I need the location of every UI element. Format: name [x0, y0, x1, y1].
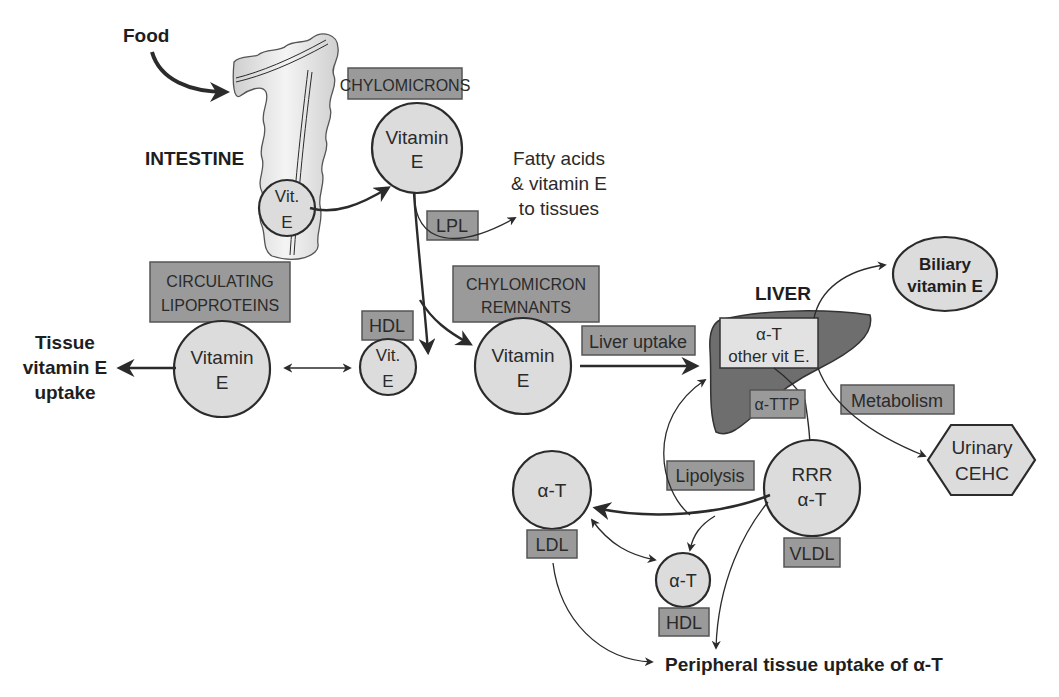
hdl-box-top: HDL [362, 311, 413, 340]
peripheral-tissue-uptake-label: Peripheral tissue uptake of α-T [665, 654, 943, 675]
fatty-acids-label: Fatty acids & vitamin E to tissues [511, 148, 607, 219]
svg-text:LDL: LDL [535, 535, 568, 555]
chylomicrons-box: CHYLOMICRONS [340, 68, 471, 99]
svg-text:other vit E.: other vit E. [728, 347, 809, 366]
hdl-box-bottom: HDL [659, 608, 709, 636]
svg-text:Vit.: Vit. [376, 346, 400, 365]
hdl-alpha-t-node: α-T [656, 553, 710, 607]
svg-text:Liver uptake: Liver uptake [589, 332, 687, 352]
intestine-label: INTESTINE [145, 148, 244, 169]
svg-text:vitamin E: vitamin E [23, 357, 107, 378]
svg-text:LPL: LPL [436, 216, 468, 236]
biliary-vitamin-e-node: Biliary vitamin E [893, 237, 997, 311]
svg-text:& vitamin E: & vitamin E [511, 173, 607, 194]
svg-text:E: E [216, 372, 229, 393]
svg-text:Lipolysis: Lipolysis [675, 466, 744, 486]
svg-text:CIRCULATING: CIRCULATING [166, 273, 273, 290]
ldl-alpha-t-node: α-T [513, 451, 591, 529]
urinary-cehc-node: Urinary CEHC [928, 425, 1035, 495]
svg-text:Tissue: Tissue [35, 332, 95, 353]
ldl-hdl-exchange-arrow [592, 520, 655, 560]
vldl-box: VLDL [784, 538, 840, 567]
svg-text:HDL: HDL [369, 316, 405, 336]
svg-text:α-T: α-T [798, 489, 827, 510]
svg-text:vitamin E: vitamin E [907, 277, 983, 296]
vldl-rrr-alpha-t-node: RRR α-T [764, 440, 860, 536]
svg-text:Vit.: Vit. [275, 187, 299, 206]
ldl-box: LDL [527, 530, 577, 558]
circulating-vitamin-e-node: Vitamin E [174, 321, 270, 417]
svg-text:CEHC: CEHC [955, 463, 1009, 484]
svg-text:CHYLOMICRON: CHYLOMICRON [466, 276, 586, 293]
tissue-vitamin-e-uptake-label: Tissue vitamin E uptake [23, 332, 107, 403]
alpha-ttp-box: α-TTP [750, 390, 805, 418]
svg-text:HDL: HDL [666, 613, 702, 633]
vldl-to-peripheral-arrow [716, 502, 768, 648]
svg-text:CHYLOMICRONS: CHYLOMICRONS [340, 77, 471, 94]
circulating-lipoproteins-box: CIRCULATING LIPOPROTEINS [150, 262, 290, 322]
food-label: Food [123, 25, 169, 46]
vitamin-e-metabolism-diagram: Food INTESTINE Vit. E CHYLOMICRONS Vitam… [0, 0, 1059, 697]
vldl-to-hdl-arrow [690, 516, 715, 550]
svg-text:Fatty acids: Fatty acids [513, 148, 605, 169]
svg-text:REMNANTS: REMNANTS [481, 299, 571, 316]
svg-text:Vitamin: Vitamin [491, 345, 554, 366]
svg-text:uptake: uptake [34, 382, 95, 403]
chylomicron-to-hdl-arrow [414, 193, 428, 352]
lipolysis-return-to-liver-arrow [664, 380, 705, 515]
metabolism-box: Metabolism [841, 385, 954, 414]
svg-text:α-T: α-T [669, 571, 696, 591]
svg-text:Metabolism: Metabolism [851, 391, 943, 411]
svg-text:Biliary: Biliary [919, 255, 972, 274]
svg-text:E: E [382, 372, 393, 391]
chylomicron-vitamin-e-node: Vitamin E [372, 103, 462, 193]
svg-text:LIPOPROTEINS: LIPOPROTEINS [161, 297, 279, 314]
lipolysis-box: Lipolysis [667, 461, 754, 490]
svg-text:VLDL: VLDL [789, 544, 834, 564]
food-arrow [152, 52, 226, 92]
svg-text:Vitamin: Vitamin [190, 347, 253, 368]
liver-label: LIVER [755, 283, 811, 304]
liver-uptake-box: Liver uptake [582, 326, 695, 355]
svg-text:Urinary: Urinary [951, 437, 1013, 458]
svg-text:α-T: α-T [538, 480, 567, 501]
svg-text:α-TTP: α-TTP [755, 396, 800, 413]
ldl-to-peripheral-arrow [553, 563, 652, 662]
svg-text:Vitamin: Vitamin [385, 127, 448, 148]
vldl-to-ldl-arrow [596, 495, 770, 514]
svg-text:E: E [411, 151, 424, 172]
svg-text:E: E [517, 370, 530, 391]
svg-text:α-T: α-T [756, 325, 782, 344]
alpha-t-liver-box: α-T other vit E. [720, 318, 818, 368]
liver-to-biliary-arrow [814, 265, 885, 318]
svg-text:E: E [281, 213, 292, 232]
chylomicron-remnants-box: CHYLOMICRON REMNANTS [453, 266, 599, 322]
hdl-vitamin-e-node: Vit. E [360, 339, 416, 395]
remnant-vitamin-e-node: Vitamin E [475, 318, 571, 414]
svg-text:to tissues: to tissues [519, 198, 599, 219]
lpl-box: LPL [427, 211, 478, 240]
intestine-vitamin-e-node: Vit. E [259, 180, 315, 236]
svg-text:RRR: RRR [791, 464, 832, 485]
